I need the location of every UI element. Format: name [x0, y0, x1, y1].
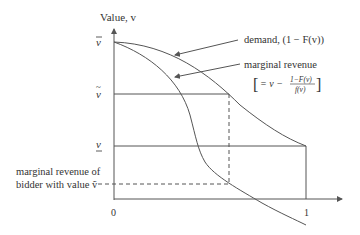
mr-label: marginal revenue [244, 59, 317, 70]
tick-v-under: v [96, 138, 101, 150]
annotation-line1: marginal revenue of [16, 166, 101, 177]
tick-v-bar: v [96, 36, 101, 48]
annotation-line2: bidder with value ṽ [16, 179, 98, 190]
demand-label: demand, (1 − F(v)) [244, 34, 324, 46]
demand-pointer-arrow [175, 40, 238, 55]
svg-text:]: ] [316, 76, 321, 93]
tick-x-1: 1 [304, 207, 309, 218]
svg-text:1−F(v): 1−F(v) [290, 75, 312, 84]
y-axis-label: Value, v [100, 11, 137, 23]
svg-text:f(v): f(v) [295, 85, 306, 94]
svg-text:= v −: = v − [260, 78, 283, 89]
mr-formula: [ = v − 1−F(v) f(v) ] [253, 75, 321, 94]
mr-pointer-arrow [175, 64, 240, 77]
diagram-canvas: Value, v v v ~ v 0 1 demand, (1 − F(v)) … [0, 0, 360, 235]
tick-x-0: 0 [111, 207, 116, 218]
tilde-mark: ~ [96, 82, 101, 92]
svg-text:[: [ [253, 76, 258, 93]
